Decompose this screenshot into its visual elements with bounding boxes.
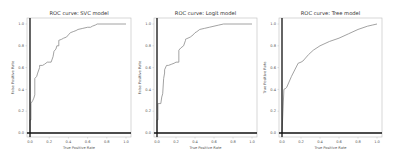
x-axis-label: True Positive Rate bbox=[188, 146, 222, 150]
y-axis-label: True Positive Rate bbox=[263, 61, 267, 95]
y-tick-label: 0.4 bbox=[145, 88, 151, 92]
y-tick-label: 0.6 bbox=[18, 66, 24, 70]
y-tick-label: 0.4 bbox=[18, 88, 24, 92]
x-tick-label: 0.0 bbox=[154, 140, 160, 144]
roc-curve bbox=[282, 24, 377, 133]
logit-chart: ROC curve: Logit model0.00.20.40.60.81.0… bbox=[138, 10, 257, 150]
chart-title: ROC curve: Tree model bbox=[301, 10, 361, 16]
x-tick-label: 0.8 bbox=[230, 140, 236, 144]
x-axis-label: True Positive Rate bbox=[313, 146, 347, 150]
chart-title: ROC curve: Logit model bbox=[175, 10, 236, 17]
y-tick-label: 0.2 bbox=[270, 109, 276, 113]
y-tick-label: 0.4 bbox=[270, 88, 276, 92]
chart-title: ROC curve: SVC model bbox=[49, 10, 108, 16]
figure: ROC curve: SVC model0.00.20.40.60.81.00.… bbox=[0, 0, 394, 158]
y-tick-label: 1.0 bbox=[145, 22, 151, 26]
y-tick-label: 1.0 bbox=[18, 22, 24, 26]
x-tick-label: 0.4 bbox=[317, 140, 323, 144]
x-tick-label: 0.2 bbox=[173, 140, 179, 144]
roc-figure: ROC curve: SVC model0.00.20.40.60.81.00.… bbox=[0, 0, 394, 158]
x-tick-label: 0.2 bbox=[298, 140, 304, 144]
y-tick-label: 0.0 bbox=[270, 131, 276, 135]
y-tick-label: 0.0 bbox=[145, 131, 151, 135]
x-tick-label: 0.6 bbox=[211, 140, 217, 144]
x-tick-label: 0.6 bbox=[85, 140, 91, 144]
x-tick-label: 0.4 bbox=[66, 140, 72, 144]
roc-curve bbox=[30, 24, 126, 133]
svc-chart: ROC curve: SVC model0.00.20.40.60.81.00.… bbox=[11, 10, 131, 150]
roc-curve bbox=[157, 24, 252, 133]
x-tick-label: 0.2 bbox=[46, 140, 52, 144]
x-axis-label: True Positive Rate bbox=[62, 146, 96, 150]
x-tick-label: 0.0 bbox=[27, 140, 33, 144]
y-tick-label: 0.6 bbox=[270, 66, 276, 70]
y-tick-label: 0.8 bbox=[270, 44, 276, 48]
y-tick-label: 0.6 bbox=[145, 66, 151, 70]
y-tick-label: 0.2 bbox=[18, 109, 24, 113]
x-tick-label: 1.0 bbox=[374, 140, 380, 144]
axes-frame bbox=[154, 18, 257, 137]
x-tick-label: 0.0 bbox=[279, 140, 285, 144]
x-tick-label: 0.4 bbox=[192, 140, 198, 144]
x-tick-label: 0.6 bbox=[336, 140, 342, 144]
axes-frame bbox=[279, 18, 382, 137]
y-tick-label: 1.0 bbox=[270, 22, 276, 26]
axes-frame bbox=[27, 18, 131, 137]
x-tick-label: 1.0 bbox=[123, 140, 129, 144]
y-tick-label: 0.8 bbox=[18, 44, 24, 48]
tree-chart: ROC curve: Tree model0.00.20.40.60.81.00… bbox=[263, 10, 382, 150]
x-tick-label: 0.8 bbox=[355, 140, 361, 144]
y-axis-label: False Positive Rate bbox=[11, 60, 15, 94]
y-tick-label: 0.2 bbox=[145, 109, 151, 113]
x-tick-label: 0.8 bbox=[104, 140, 110, 144]
y-axis-label: False Positive Rate bbox=[138, 60, 142, 94]
y-tick-label: 0.8 bbox=[145, 44, 151, 48]
x-tick-label: 1.0 bbox=[249, 140, 255, 144]
y-tick-label: 0.0 bbox=[18, 131, 24, 135]
